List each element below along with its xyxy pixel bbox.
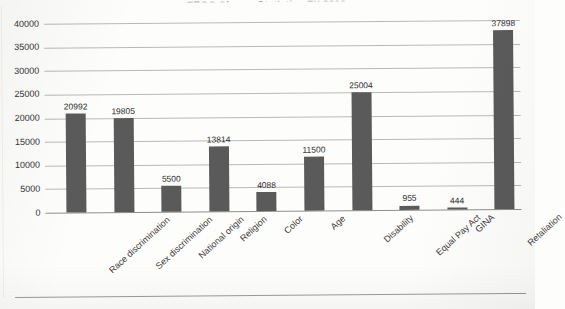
- bar: [351, 92, 372, 210]
- bar-value-label: 37898: [477, 19, 529, 28]
- y-axis-tick-label: 5000: [2, 185, 40, 194]
- page-bottom-rule: [15, 293, 526, 298]
- y-axis-tick-label: 15000: [2, 137, 40, 146]
- chart-title-cropped: EEOC Charge Statistics FY 2012: [0, 0, 534, 4]
- bar-value-label: 20992: [50, 102, 102, 111]
- category-tick-label: Retaliation: [526, 212, 564, 248]
- bar-value-label: 5500: [145, 175, 197, 184]
- bar-value-label: 444: [431, 196, 483, 205]
- bar-value-label: 19805: [97, 107, 149, 116]
- category-tick-label: Equal Pay Act: [434, 212, 482, 257]
- bar-value-label: 955: [383, 194, 435, 203]
- category-tick-label: Disability: [381, 213, 414, 245]
- bar: [447, 207, 467, 209]
- bar: [493, 30, 514, 209]
- bar-value-label: 13814: [193, 135, 245, 144]
- bar: [161, 186, 181, 212]
- gridline: [45, 91, 521, 96]
- bar: [400, 205, 420, 210]
- y-axis-tick-label: 40000: [1, 19, 39, 28]
- y-axis-tick-label: 25000: [1, 90, 39, 99]
- category-tick-label: Color: [282, 214, 305, 236]
- y-axis-tick-label: 20000: [2, 114, 40, 123]
- gridline: [44, 67, 520, 72]
- category-tick-label: Age: [329, 213, 348, 231]
- y-axis-tick-label: 10000: [2, 161, 40, 170]
- bar: [304, 156, 324, 210]
- bar: [257, 192, 277, 211]
- bar-value-label: 11500: [288, 145, 340, 154]
- y-axis-tick-label: 0: [2, 208, 40, 217]
- bar: [66, 113, 87, 212]
- bar-value-label: 25004: [335, 81, 387, 90]
- bar: [209, 146, 230, 211]
- y-axis-tick-label: 35000: [1, 43, 39, 52]
- bar-value-label: 4088: [241, 180, 293, 189]
- y-axis-tick-label: 30000: [1, 67, 39, 76]
- gridline: [44, 44, 520, 49]
- gridline: [44, 20, 520, 25]
- plot-area: 4000035000300002500020000150001000050000…: [44, 20, 521, 213]
- chart-title-text: EEOC Charge Statistics FY 2012: [187, 0, 346, 4]
- bar: [113, 118, 134, 212]
- chart-sheet: EEOC Charge Statistics FY 2012 400003500…: [0, 0, 536, 309]
